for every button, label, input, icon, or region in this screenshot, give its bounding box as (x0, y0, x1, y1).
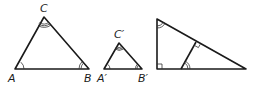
label-b-prime: B′ (138, 72, 149, 85)
triangle-a-prime-b-prime-c-prime: A′ B′ C′ (96, 28, 149, 85)
angle-altitude-arc-1 (185, 63, 189, 69)
label-c: C (40, 2, 48, 15)
label-c-prime: C′ (114, 28, 125, 41)
altitude-line (181, 42, 196, 69)
right-triangle-with-altitude (157, 19, 246, 69)
angle-a-arc (21, 62, 24, 69)
right-triangle-edges (157, 19, 246, 69)
label-b: B (84, 72, 92, 85)
label-a: A (7, 72, 16, 85)
triangle-abc-edges (15, 17, 89, 69)
similar-triangles-diagram: A B C A′ B′ C′ (0, 0, 256, 85)
label-a-prime: A′ (96, 72, 108, 85)
angle-b-arc-1 (81, 63, 83, 69)
triangle-abc: A B C (7, 2, 92, 85)
angle-c-prime-arc-1 (116, 47, 122, 48)
